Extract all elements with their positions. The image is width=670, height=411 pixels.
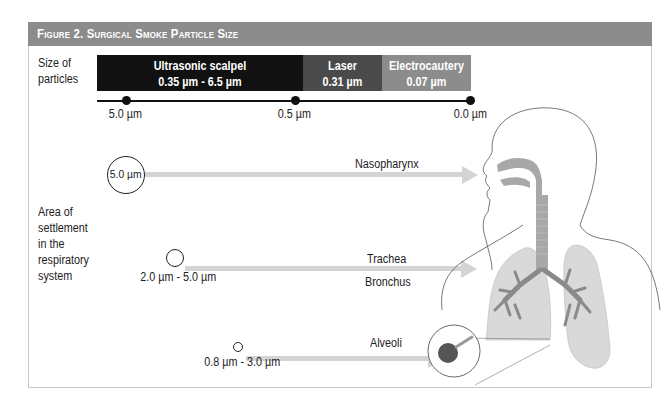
trachea xyxy=(536,195,548,270)
alveoli-magnified-view xyxy=(426,323,482,379)
bar-laser: Laser 0.31 µm xyxy=(303,55,382,91)
region-alveoli: Alveoli xyxy=(370,336,402,350)
particle-size-2-5um: 2.0 µm - 5.0 µm xyxy=(140,270,216,284)
bar-electrocautery: Electrocautery 0.07 µm xyxy=(382,55,471,91)
size-scale-axis xyxy=(97,100,471,102)
region-nasopharynx: Nasopharynx xyxy=(355,157,419,171)
region-trachea: Trachea xyxy=(367,252,406,266)
region-bronchus: Bronchus xyxy=(365,275,411,289)
particle-circle-2-5um xyxy=(166,249,184,267)
size-of-particles-label: Size of particles xyxy=(38,55,78,87)
oral-airway xyxy=(500,177,530,188)
scale-label-5um: 5.0 µm xyxy=(109,107,142,121)
particle-size-5um: 5.0 µm xyxy=(110,168,142,180)
callout-line-bottom xyxy=(475,345,550,385)
bar-ultrasonic-scalpel: Ultrasonic scalpel 0.35 µm - 6.5 µm xyxy=(97,55,303,91)
scale-dot-0-5um xyxy=(291,96,300,105)
arrow-nasopharynx xyxy=(145,172,463,177)
area-of-settlement-label: Area of settlement in the respiratory sy… xyxy=(38,204,89,284)
scale-dot-5um xyxy=(122,96,131,105)
figure-title: Figure 2. Surgical Smoke Particle Size xyxy=(37,26,238,41)
figure-header: Figure 2. Surgical Smoke Particle Size xyxy=(28,22,652,46)
particle-circle-0-8-3um xyxy=(233,342,243,352)
scale-label-0-5um: 0.5 µm xyxy=(278,107,311,121)
particle-size-0-8-3um: 0.8 µm - 3.0 µm xyxy=(204,355,280,369)
